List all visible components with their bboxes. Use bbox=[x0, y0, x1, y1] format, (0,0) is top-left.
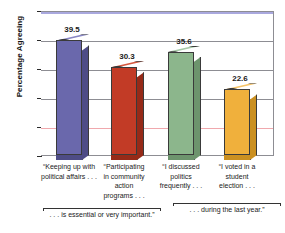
bar-value-label: 39.5 bbox=[52, 25, 92, 34]
bar-side-face bbox=[137, 72, 144, 160]
category-label-line: in community bbox=[95, 172, 153, 182]
y-tick-mark bbox=[37, 11, 41, 12]
category-label-line: political affairs . . . bbox=[37, 172, 101, 182]
y-tick-mark bbox=[37, 69, 41, 70]
bar-front-face bbox=[56, 40, 82, 155]
bar bbox=[111, 67, 137, 155]
bar-side-face bbox=[250, 94, 257, 160]
category-label-line: “I voted in a bbox=[209, 162, 265, 172]
bar bbox=[224, 89, 250, 155]
bar-side-face bbox=[82, 45, 89, 160]
category-label-line: politics bbox=[153, 172, 209, 182]
bar-front-face bbox=[224, 89, 250, 155]
bar bbox=[168, 52, 194, 155]
bracket-label: . . . is essential or very important.” bbox=[33, 211, 171, 218]
category-label-line: “Participating bbox=[95, 162, 153, 172]
category-label: “I discussedpoliticsfrequently . . . bbox=[153, 162, 209, 191]
category-label-line: frequently . . . bbox=[153, 181, 209, 191]
category-label-line: student bbox=[209, 172, 265, 182]
bar-value-label: 22.6 bbox=[220, 74, 260, 83]
category-label-line: “Keeping up with bbox=[37, 162, 101, 172]
bar-chart: Percentage Agreeing 01020304050 39.530.3… bbox=[0, 0, 285, 233]
y-tick-mark bbox=[37, 40, 41, 41]
category-label-line: election . . . bbox=[209, 181, 265, 191]
bracket-label: . . . during the last year.” bbox=[163, 206, 285, 213]
bar-front-face bbox=[168, 52, 194, 155]
y-tick-mark bbox=[37, 127, 41, 128]
category-label-line: “I discussed bbox=[153, 162, 209, 172]
y-tick-mark bbox=[37, 156, 41, 157]
category-label-line: programs . . . bbox=[95, 191, 153, 201]
category-label: “Keeping up withpolitical affairs . . . bbox=[37, 162, 101, 181]
gridline-50 bbox=[41, 12, 273, 14]
category-label: “Participatingin communityactionprograms… bbox=[95, 162, 153, 200]
category-label: “I voted in astudentelection . . . bbox=[209, 162, 265, 191]
bar-side-face bbox=[194, 57, 201, 160]
bar-value-label: 35.6 bbox=[164, 37, 204, 46]
bar bbox=[56, 40, 82, 155]
category-label-line: action bbox=[95, 181, 153, 191]
y-tick-mark bbox=[37, 98, 41, 99]
y-axis-title: Percentage Agreeing bbox=[15, 2, 24, 112]
bar-front-face bbox=[111, 67, 137, 155]
bar-value-label: 30.3 bbox=[107, 52, 147, 61]
